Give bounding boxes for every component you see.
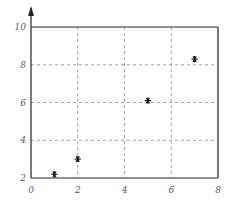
y-tick-label: 4 [19,135,26,145]
data-point-asterisk-icon [51,171,57,177]
y-tick-label: 6 [20,98,26,108]
y-tick-label: 2 [19,173,26,183]
x-tick-label: 4 [121,185,128,195]
x-tick-label: 6 [168,185,174,195]
x-tick-label: 0 [28,185,34,195]
y-tick-label: 10 [15,22,27,32]
x-tick-label: 2 [74,185,81,195]
x-tick-label: 8 [215,185,221,195]
y-tick-label: 8 [20,60,26,70]
data-point-asterisk-icon [75,156,81,162]
y-axis-arrow-icon [28,6,34,16]
plot-area: 24681002468 [0,0,232,205]
scatter-chart: 24681002468 [0,0,232,205]
data-point-asterisk-icon [191,56,197,62]
